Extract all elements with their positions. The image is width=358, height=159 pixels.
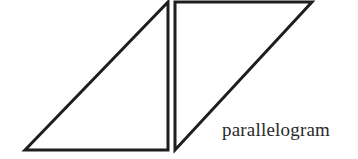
parallelogram-label: parallelogram: [222, 119, 330, 141]
left-triangle: [25, 2, 168, 150]
